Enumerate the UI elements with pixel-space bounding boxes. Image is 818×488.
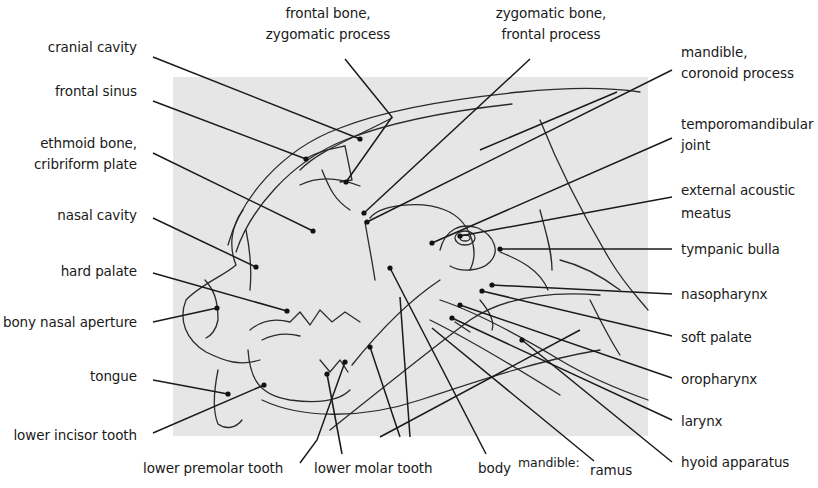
anatomy-diagram: cranial cavity frontal sinus ethmoid bon… [0,0,818,488]
label-external-acoustic-meatus: external acoustic meatus [681,180,795,224]
label-oropharynx: oropharynx [681,369,757,390]
label-lower-incisor-tooth: lower incisor tooth [13,425,137,446]
label-bony-nasal-aperture: bony nasal aperture [3,312,137,333]
leader-dots [214,136,524,396]
label-mandible-body: body [478,458,511,479]
label-ethmoid-bone: ethmoid bone, cribriform plate [34,133,137,175]
label-nasopharynx: nasopharynx [681,284,768,305]
label-frontal-sinus: frontal sinus [55,81,137,102]
label-hyoid-apparatus: hyoid apparatus [681,452,789,473]
label-frontal-bone: frontal bone, zygomatic process [248,3,408,45]
label-nasal-cavity: nasal cavity [57,205,137,226]
label-mandible-group: mandible: [518,452,580,473]
label-temporomandibular-joint: temporomandibular joint [681,114,813,156]
label-lower-molar-tooth: lower molar tooth [314,458,432,479]
label-hard-palate: hard palate [61,261,137,282]
label-mandible-ramus: ramus [590,460,632,481]
label-larynx: larynx [681,411,723,432]
label-lower-premolar-tooth: lower premolar tooth [143,458,283,479]
label-cranial-cavity: cranial cavity [48,37,137,58]
label-soft-palate: soft palate [681,327,752,348]
label-tongue: tongue [90,366,137,387]
label-mandible-coronoid: mandible, coronoid process [681,42,794,84]
label-zygomatic-bone: zygomatic bone, frontal process [486,3,616,45]
label-tympanic-bulla: tympanic bulla [681,239,780,260]
